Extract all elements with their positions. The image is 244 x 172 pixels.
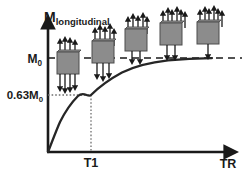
voxel-3-body (125, 29, 147, 51)
voxel-1-body (57, 52, 79, 74)
y-tick-m0-sub: 0 (37, 59, 42, 68)
y-axis-label-sub: longitudinal (56, 16, 110, 27)
y-tick-063-sub: 0 (39, 95, 44, 104)
voxel-2-body (92, 41, 114, 63)
y-tick-m0-main: M (27, 52, 37, 66)
y-tick-063-main: 0.63M (7, 89, 39, 101)
voxel-5-body (197, 22, 219, 44)
y-axis-label-main: M (44, 9, 56, 25)
x-tick-label-t1: T1 (84, 156, 99, 170)
t1-relaxation-figure: Mlongitudinal M0 0.63M0 T1 TR (0, 0, 244, 172)
x-axis-label: TR (220, 157, 237, 171)
voxel-4-body (160, 23, 182, 45)
